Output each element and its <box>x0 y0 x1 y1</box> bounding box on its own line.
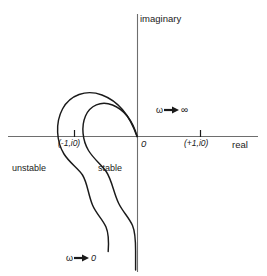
region-label-stable: stable <box>98 164 122 173</box>
right-arrow-icon <box>74 254 90 262</box>
infinity-symbol: ∞ <box>181 104 188 115</box>
annotation-omega-infinity: ω ∞ <box>156 105 188 115</box>
plot-canvas <box>0 0 267 276</box>
origin-label: 0 <box>141 139 146 149</box>
zero-symbol: 0 <box>91 253 96 263</box>
nyquist-plot-figure: imaginary real 0 (-1,i0) (+1,i0) unstabl… <box>0 0 267 276</box>
stable-locus <box>83 103 137 270</box>
real-axis-label: real <box>232 140 248 150</box>
annotation-omega-zero: ω 0 <box>66 254 96 263</box>
axes-group <box>8 14 258 272</box>
point-label-plus-one: (+1,i0) <box>184 139 208 148</box>
point-label-minus-one: (-1,i0) <box>58 139 80 148</box>
omega-symbol: ω <box>66 253 73 263</box>
loci-group <box>58 93 138 270</box>
right-arrow-icon <box>164 106 180 114</box>
region-label-unstable: unstable <box>12 164 46 173</box>
imaginary-axis-label: imaginary <box>140 14 181 24</box>
omega-symbol: ω <box>156 105 163 115</box>
